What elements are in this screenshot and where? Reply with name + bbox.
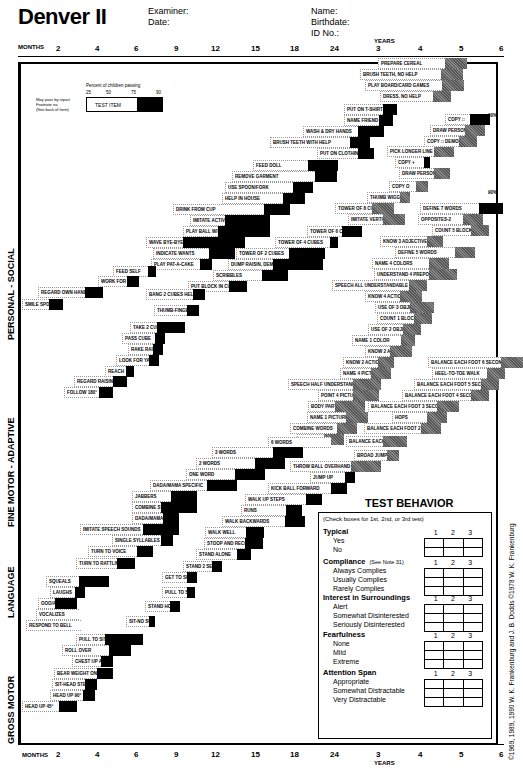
pass-range-bar (235, 469, 265, 480)
test-item: SIT-NO SUPPORT (126, 616, 155, 627)
checkbox-cell[interactable] (425, 642, 444, 650)
checkbox-cell[interactable] (425, 548, 444, 556)
pass-range-bar (383, 214, 405, 225)
pass-range-bar (200, 259, 212, 270)
checkbox-cell[interactable] (464, 689, 482, 697)
checkbox-cell[interactable] (444, 642, 463, 650)
sector-personal-social: PERSONAL - SOCIAL (6, 248, 16, 340)
test-item-label: 3 WORDS (212, 447, 273, 458)
test-number-headers: 123 (427, 595, 479, 602)
pass-range-bar (207, 480, 237, 491)
pass-range-bar (427, 236, 443, 247)
test-item-label: WASH & DRY HANDS (303, 126, 358, 137)
sector-gross-motor: GROSS MOTOR (6, 676, 16, 744)
checkbox-cell[interactable] (444, 548, 463, 556)
checkbox-cell[interactable] (444, 689, 463, 697)
test-item-label: STAND HOLDING ON (145, 601, 170, 612)
test-item: SQUEALS (46, 576, 109, 587)
checkbox-cell[interactable] (444, 605, 463, 613)
checkbox-cell[interactable] (464, 569, 482, 577)
checkbox-cell[interactable] (464, 539, 482, 547)
pass-range-bar (409, 280, 427, 291)
test-item: HELP IN HOUSE (222, 193, 305, 204)
test-item-label: BEAR WEIGHT ON LEGS (54, 668, 97, 679)
checkbox-cell[interactable] (464, 642, 482, 650)
test-item: THROW BALL OVERHAND (290, 461, 381, 472)
checkbox-cell[interactable] (464, 548, 482, 556)
test-item-label: PLAY PAT-A-CAKE (151, 259, 200, 270)
pass-range-bar (358, 126, 384, 137)
checkbox-cell[interactable] (425, 660, 444, 668)
tick-4m: 4 (95, 750, 99, 759)
pass-range-bar (345, 472, 355, 483)
checkbox-cell[interactable] (444, 569, 463, 577)
test-item-label: BODY PARTS (308, 401, 335, 412)
checkbox-cell[interactable] (464, 651, 482, 659)
test-item: KICK BALL FORWARD (268, 483, 347, 494)
tick-15m: 15 (251, 750, 260, 759)
tick-2m: 2 (56, 44, 60, 53)
checkbox-cell[interactable] (444, 578, 463, 586)
test-item: THUMB-FINGER GRASP (154, 305, 199, 316)
checkbox-cell[interactable] (464, 605, 482, 613)
checkbox-cell[interactable] (425, 614, 444, 622)
pass-range-bar (225, 215, 270, 226)
checkbox-cell[interactable] (444, 539, 463, 547)
pass-range-bar (459, 136, 477, 147)
test-item: PREPARE CEREAL (378, 58, 467, 69)
tick-6m: 6 (134, 750, 138, 759)
checkbox-cell[interactable] (425, 578, 444, 586)
test-item-label: NAME 4 PICTURES (340, 368, 371, 379)
checkbox-cell[interactable] (425, 689, 444, 697)
checkbox-cell[interactable] (425, 605, 444, 613)
checkbox-cell[interactable] (464, 614, 482, 622)
test-item: LOOK FOR YARN (116, 355, 159, 366)
checkbox-cell[interactable] (444, 651, 463, 659)
test-item-label: COPY □ DEMONSTRATED (424, 136, 459, 147)
checkbox-cell[interactable] (444, 660, 463, 668)
test-item: DRAW PERSON 6 PARTS (430, 125, 485, 136)
tick-6m: 6 (134, 44, 138, 53)
checkbox-cell[interactable] (464, 578, 482, 586)
pass-range-bar (170, 601, 180, 612)
checkbox-cell[interactable] (464, 698, 482, 706)
test-item-label: LAUGHS (50, 587, 75, 598)
checkbox-cell[interactable] (425, 680, 444, 688)
test-item: HEEL-TO-TOE WALK (432, 368, 505, 379)
test-item: WORK FOR TOY (98, 276, 139, 287)
test-item-label: CHEST UP ARM SUPPORT (72, 656, 101, 667)
checkbox-cell[interactable] (425, 651, 444, 659)
pass-range-bar (383, 104, 397, 115)
test-item-label: KNOW 3 ADJECTIVES (380, 236, 427, 247)
test-item-label: PULL TO STAND (162, 587, 187, 598)
pass-range-bar (470, 114, 490, 125)
pass-range-bar (187, 587, 195, 598)
test-item: VOCALIZES (36, 609, 79, 620)
pass-range-bar (445, 58, 467, 69)
tick-12m: 12 (211, 44, 220, 53)
test-item-label: SQUEALS (46, 576, 79, 587)
test-item-label: BROAD JUMP (354, 450, 387, 461)
behavior-group: Attention SpanAppropriateSomewhat Distra… (323, 668, 487, 704)
pass-range-bar (353, 390, 379, 401)
pass-range-bar (358, 148, 374, 159)
pass-range-bar (410, 302, 434, 313)
pass-range-bar (433, 91, 451, 102)
test-item: KNOW 2 ACTIONS (343, 357, 394, 368)
checkbox-cell[interactable] (425, 539, 444, 547)
checkbox-cell[interactable] (425, 698, 444, 706)
pass-range-bar (471, 390, 489, 401)
pass-range-bar (330, 237, 338, 248)
checkbox-cell[interactable] (425, 569, 444, 577)
checkbox-cell[interactable] (444, 680, 463, 688)
test-item: SPEECH HALF UNDERSTANDABLE (288, 379, 381, 390)
checkbox-cell[interactable] (464, 660, 482, 668)
test-item-label: COPY □ (445, 114, 470, 125)
pass-range-bar (289, 248, 325, 259)
checkbox-cell[interactable] (464, 680, 482, 688)
test-item: COPY + (395, 157, 430, 168)
months-label: MONTHS (18, 44, 44, 50)
pass-range-bar (187, 305, 199, 316)
checkbox-cell[interactable] (444, 698, 463, 706)
checkbox-cell[interactable] (444, 614, 463, 622)
